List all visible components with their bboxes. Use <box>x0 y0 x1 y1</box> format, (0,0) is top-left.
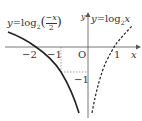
label-eq: =log <box>13 17 37 28</box>
left-curve-label: y=log2(−x2) <box>7 14 62 33</box>
origin-label: O <box>78 50 86 60</box>
right-curve-label: y=log2x <box>91 14 130 26</box>
tick-x-1: 1 <box>114 50 120 60</box>
tick-y-neg1: −1 <box>74 75 89 85</box>
curve-right <box>92 25 133 113</box>
y-axis-arrow-icon <box>86 12 91 17</box>
label-eq: =log <box>97 13 121 24</box>
tick-x-neg2: −2 <box>22 50 37 60</box>
fraction-den: 2 <box>46 24 57 33</box>
label-arg: x <box>124 13 130 24</box>
curve-left <box>8 32 79 113</box>
fraction: −x2 <box>46 14 57 33</box>
tick-x-neg1: −1 <box>47 50 62 60</box>
y-axis-label: y <box>81 13 86 21</box>
x-axis-label: x <box>131 50 137 60</box>
